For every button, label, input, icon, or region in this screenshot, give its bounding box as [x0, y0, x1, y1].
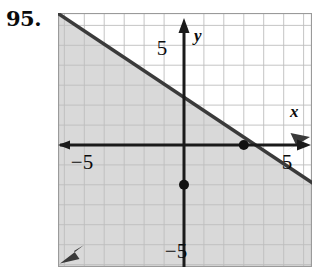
point-x-intercept [239, 140, 249, 150]
x-axis-label: x [289, 102, 299, 121]
graph-canvas: y x 5 −5 −5 5 [58, 13, 312, 267]
point-y-intercept [179, 180, 189, 190]
problem-number: 95. [6, 6, 41, 31]
y-tick-label-neg5: −5 [165, 239, 187, 263]
y-tick-label-5: 5 [157, 36, 168, 60]
x-tick-label-neg5: −5 [71, 150, 93, 174]
coordinate-graph-figure: y x 5 −5 −5 5 [58, 13, 312, 267]
y-axis-label: y [192, 26, 202, 45]
x-tick-label-5: 5 [282, 150, 293, 174]
